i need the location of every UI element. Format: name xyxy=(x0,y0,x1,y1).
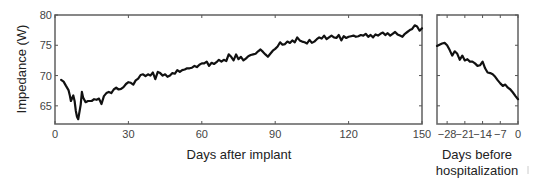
x-tick-label: −28 xyxy=(438,128,457,140)
y-tick-label: 75 xyxy=(40,39,52,51)
x-tick-label: 150 xyxy=(413,128,431,140)
secondary-y-ticks xyxy=(437,15,518,106)
x-axis-title-main: Days after implant xyxy=(187,147,292,162)
x-tick-label: −14 xyxy=(473,128,492,140)
x-tick-label: 120 xyxy=(339,128,357,140)
x-axis-title-secondary-line1: Days before xyxy=(442,147,512,162)
main-impedance-line xyxy=(61,25,422,119)
main-panel: 65707580 0306090120150 Impedance (W) Day… xyxy=(14,9,431,162)
secondary-plot-frame xyxy=(437,15,518,124)
y-tick-label: 70 xyxy=(40,70,52,82)
y-tick-label: 65 xyxy=(40,100,52,112)
main-y-ticks: 65707580 xyxy=(40,9,422,112)
x-axis-title-secondary-line2: hospitalization xyxy=(436,163,518,178)
impedance-chart: 65707580 0306090120150 Impedance (W) Day… xyxy=(0,0,539,179)
x-tick-label: −21 xyxy=(456,128,475,140)
x-tick-label: 90 xyxy=(269,128,281,140)
y-axis-title: Impedance (W) xyxy=(14,25,29,114)
x-tick-label: 0 xyxy=(515,128,521,140)
secondary-x-ticks: −28−21−14−70 xyxy=(438,15,521,140)
secondary-panel: −28−21−14−70 Days before hospitalization xyxy=(436,15,521,178)
y-tick-label: 80 xyxy=(40,9,52,21)
main-x-ticks: 0306090120150 xyxy=(52,15,431,140)
x-tick-label: 30 xyxy=(122,128,134,140)
main-plot-frame xyxy=(55,15,422,124)
x-tick-label: −7 xyxy=(494,128,507,140)
x-tick-label: 0 xyxy=(52,128,58,140)
x-tick-label: 60 xyxy=(196,128,208,140)
secondary-impedance-line xyxy=(437,43,518,99)
